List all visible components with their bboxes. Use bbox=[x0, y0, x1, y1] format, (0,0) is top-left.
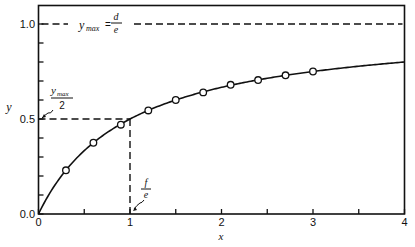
svg-text:max: max bbox=[57, 90, 70, 98]
ymax-annotation: y max = d e bbox=[78, 11, 122, 35]
x-tick-label: 4 bbox=[401, 216, 407, 228]
fitted-curve bbox=[39, 62, 405, 214]
data-point bbox=[145, 107, 152, 114]
x-tick-label: 0 bbox=[35, 216, 41, 228]
plot-frame bbox=[39, 6, 405, 215]
y-tick-label: 0.5 bbox=[20, 113, 35, 125]
data-point bbox=[90, 139, 97, 146]
half-ymax-annotation: y max 2 bbox=[42, 84, 73, 118]
x-tick-label: 1 bbox=[127, 216, 133, 228]
axis-ticks bbox=[39, 24, 405, 214]
data-point bbox=[282, 72, 289, 79]
f-over-e-annotation: f e bbox=[133, 177, 151, 211]
y-axis-label: y bbox=[5, 100, 12, 114]
axis-tick-labels: 012340.00.51.0 bbox=[20, 18, 408, 228]
y-tick-label: 1.0 bbox=[20, 18, 35, 30]
svg-text:f: f bbox=[145, 177, 149, 188]
reference-dashed-lines bbox=[39, 24, 403, 214]
data-point bbox=[255, 77, 262, 84]
svg-text:max: max bbox=[86, 24, 100, 33]
svg-text:2: 2 bbox=[59, 100, 65, 111]
data-point bbox=[118, 121, 125, 128]
data-point bbox=[63, 167, 70, 174]
data-point bbox=[172, 97, 179, 104]
svg-text:y: y bbox=[78, 18, 85, 32]
svg-text:y: y bbox=[50, 84, 56, 96]
svg-text:e: e bbox=[144, 189, 149, 200]
data-point-markers bbox=[63, 68, 317, 173]
x-tick-label: 2 bbox=[218, 216, 224, 228]
data-point bbox=[200, 89, 207, 96]
saturation-curve-chart: 012340.00.51.0 x y y max = d e y max 2 f… bbox=[0, 0, 415, 247]
svg-text:d: d bbox=[114, 11, 120, 22]
svg-text:=: = bbox=[105, 19, 111, 30]
data-point bbox=[310, 68, 317, 75]
y-tick-label: 0.0 bbox=[20, 208, 35, 220]
svg-text:e: e bbox=[114, 24, 119, 35]
data-point bbox=[227, 82, 234, 89]
x-tick-label: 3 bbox=[310, 216, 316, 228]
x-axis-label: x bbox=[218, 230, 224, 242]
